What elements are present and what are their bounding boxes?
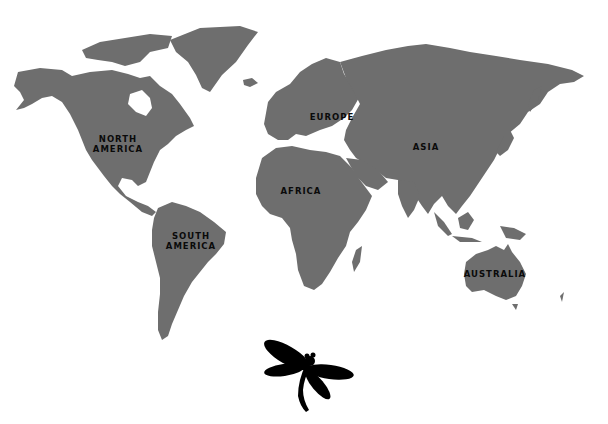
- new-guinea: [500, 226, 526, 240]
- borneo: [458, 212, 474, 230]
- south-america: [152, 202, 226, 340]
- label-north-america: NORTH AMERICA: [90, 134, 146, 154]
- tasmania: [512, 304, 518, 310]
- sumatra: [434, 212, 452, 236]
- label-asia: ASIA: [408, 142, 444, 152]
- new-zealand: [560, 292, 564, 302]
- label-line: AMERICA: [90, 144, 146, 154]
- label-line: SOUTH: [160, 231, 222, 241]
- arctic-islands: [82, 34, 172, 66]
- world-map: [0, 0, 608, 424]
- madagascar: [352, 246, 362, 272]
- label-line: AMERICA: [160, 241, 222, 251]
- java: [452, 236, 482, 242]
- label-south-america: SOUTH AMERICA: [160, 231, 222, 251]
- iceland: [243, 78, 258, 87]
- dragonfly-icon: [260, 334, 355, 412]
- label-australia: AUSTRALIA: [458, 269, 532, 279]
- label-europe: EUROPE: [302, 112, 362, 122]
- label-africa: AFRICA: [276, 186, 326, 196]
- label-line: NORTH: [90, 134, 146, 144]
